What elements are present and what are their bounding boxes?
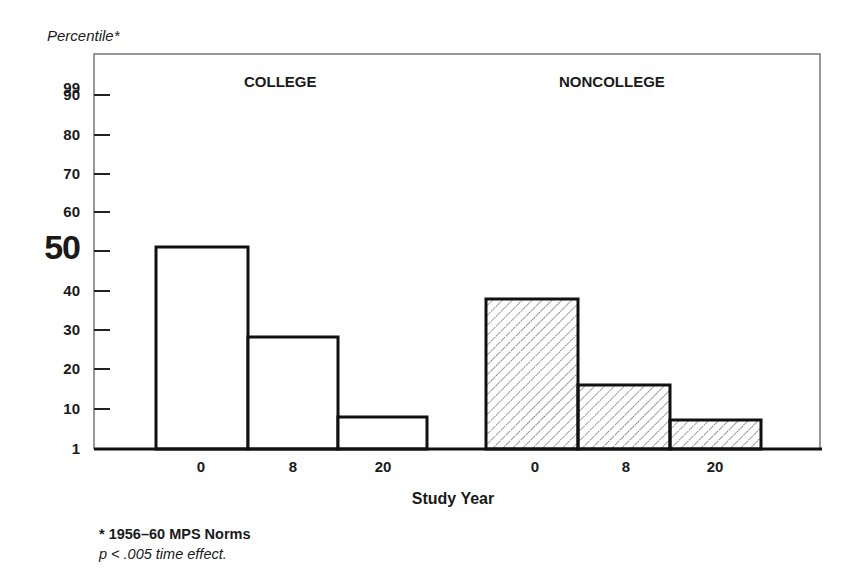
y-tick-label-80: 80 bbox=[40, 126, 80, 143]
y-tick-label-10: 10 bbox=[40, 400, 80, 417]
y-ticks bbox=[94, 95, 110, 409]
y-tick-label-90: 90 bbox=[40, 86, 80, 103]
group-label-noncollege: NONCOLLEGE bbox=[559, 73, 665, 90]
y-tick-label-50: 50 bbox=[0, 228, 80, 267]
y-tick-label-70: 70 bbox=[40, 165, 80, 182]
bar-college-year-0 bbox=[156, 247, 248, 449]
bar-college-year-20 bbox=[338, 417, 427, 449]
footnote-significance: p < .005 time effect. bbox=[99, 546, 227, 562]
y-tick-label-60: 60 bbox=[40, 203, 80, 220]
x-tick-noncollege-20: 20 bbox=[695, 458, 735, 475]
bar-noncollege-year-20 bbox=[670, 420, 761, 449]
y-tick-label-20: 20 bbox=[40, 360, 80, 377]
y-tick-label-30: 30 bbox=[40, 321, 80, 338]
x-tick-noncollege-8: 8 bbox=[606, 458, 646, 475]
y-axis-title: Percentile* bbox=[47, 27, 120, 44]
group-label-college: COLLEGE bbox=[244, 73, 317, 90]
footnote-norms: * 1956–60 MPS Norms bbox=[99, 526, 251, 542]
bar-noncollege-year-8 bbox=[578, 385, 670, 449]
noncollege-bars bbox=[486, 299, 761, 449]
x-tick-college-20: 20 bbox=[363, 458, 403, 475]
college-bars bbox=[156, 247, 427, 449]
y-tick-label-40: 40 bbox=[40, 282, 80, 299]
x-axis-title: Study Year bbox=[353, 490, 553, 508]
bar-noncollege-year-0 bbox=[486, 299, 578, 449]
bar-college-year-8 bbox=[248, 337, 338, 449]
y-tick-label-1: 1 bbox=[40, 440, 80, 457]
x-tick-college-0: 0 bbox=[181, 458, 221, 475]
x-tick-noncollege-0: 0 bbox=[515, 458, 555, 475]
x-tick-college-8: 8 bbox=[273, 458, 313, 475]
